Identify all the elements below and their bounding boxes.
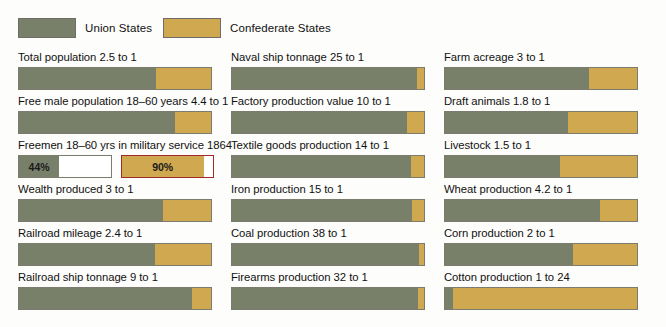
union-swatch-icon (18, 18, 76, 38)
confederate-bar-segment (573, 244, 637, 265)
legend-item-confederate: Confederate States (163, 18, 331, 38)
comparison-bar-grid: Total population 2.5 to 1Free male popul… (0, 48, 666, 327)
confederate-bar-segment (192, 288, 211, 309)
union-bar-segment (445, 112, 568, 133)
bar-item: Firearms production 32 to 1 (231, 271, 427, 310)
bar-label: Coal production 38 to 1 (231, 227, 427, 240)
bar-item: Draft animals 1.8 to 1 (444, 95, 640, 134)
bar-label: Iron production 15 to 1 (231, 183, 427, 196)
bar-item: Wealth produced 3 to 1 (18, 183, 214, 222)
confederate-bar-segment (560, 156, 637, 177)
union-bar-segment (232, 156, 411, 177)
bar-item: Livestock 1.5 to 1 (444, 139, 640, 178)
bar-label: Cotton production 1 to 24 (444, 271, 640, 284)
bar-item: Wheat production 4.2 to 1 (444, 183, 640, 222)
union-bar-segment (445, 244, 573, 265)
stacked-bar-track (444, 155, 638, 178)
bar-item: Iron production 15 to 1 (231, 183, 427, 222)
bar-item: Corn production 2 to 1 (444, 227, 640, 266)
bar-label: Farm acreage 3 to 1 (444, 51, 640, 64)
bar-label: Total population 2.5 to 1 (18, 51, 214, 64)
bar-item: Factory production value 10 to 1 (231, 95, 427, 134)
bar-label: Naval ship tonnage 25 to 1 (231, 51, 427, 64)
union-bar-segment (445, 68, 589, 89)
bar-label: Railroad ship tonnage 9 to 1 (18, 271, 214, 284)
bar-item: Railroad mileage 2.4 to 1 (18, 227, 214, 266)
bar-label: Wheat production 4.2 to 1 (444, 183, 640, 196)
legend-label-union: Union States (85, 22, 152, 34)
confederate-bar-segment (407, 112, 424, 133)
stacked-bar-track (18, 67, 212, 90)
union-bar-segment (232, 112, 407, 133)
bar-item: Textile goods production 14 to 1 (231, 139, 427, 178)
stacked-bar-track (18, 287, 212, 310)
union-bar-segment (232, 68, 417, 89)
union-bar-segment (19, 244, 155, 265)
bar-label: Free male population 18–60 years 4.4 to … (18, 95, 214, 108)
stacked-bar-track (231, 111, 425, 134)
stacked-bar-track (231, 199, 425, 222)
stacked-bar-track (231, 243, 425, 266)
confederate-swatch-icon (163, 18, 221, 38)
stacked-bar-track (444, 67, 638, 90)
confederate-bar-segment (175, 112, 211, 133)
stacked-bar-track (444, 111, 638, 134)
bar-item: Free male population 18–60 years 4.4 to … (18, 95, 214, 134)
bar-label: Firearms production 32 to 1 (231, 271, 427, 284)
union-bar-segment (232, 288, 418, 309)
bar-item: Naval ship tonnage 25 to 1 (231, 51, 427, 90)
confederate-bar-segment (589, 68, 637, 89)
bar-label: Livestock 1.5 to 1 (444, 139, 640, 152)
bar-label: Railroad mileage 2.4 to 1 (18, 227, 214, 240)
bar-label: Textile goods production 14 to 1 (231, 139, 427, 152)
legend-label-confederate: Confederate States (230, 22, 331, 34)
confederate-bar-segment (419, 244, 424, 265)
bar-item: Coal production 38 to 1 (231, 227, 427, 266)
union-percent-bar: 44% (18, 155, 112, 178)
union-bar-segment (19, 68, 156, 89)
confederate-bar-segment (156, 68, 211, 89)
stacked-bar-track (18, 243, 212, 266)
confederate-bar-segment (568, 112, 637, 133)
union-bar-segment (19, 200, 163, 221)
bar-label: Corn production 2 to 1 (444, 227, 640, 240)
percent-bar-pair: 44%90% (18, 155, 214, 178)
bar-item: Total population 2.5 to 1 (18, 51, 214, 90)
confederate-bar-segment (417, 68, 424, 89)
bar-item: Freemen 18–60 yrs in military service 18… (18, 139, 214, 178)
stacked-bar-track (444, 199, 638, 222)
union-bar-segment (445, 200, 600, 221)
stacked-bar-track (231, 287, 425, 310)
confederate-percent-bar: 90% (121, 155, 215, 178)
bar-item: Railroad ship tonnage 9 to 1 (18, 271, 214, 310)
stacked-bar-track (231, 67, 425, 90)
union-bar-segment (19, 112, 175, 133)
union-bar-segment (232, 200, 412, 221)
bar-label: Freemen 18–60 yrs in military service 18… (18, 139, 214, 152)
confederate-bar-segment (155, 244, 211, 265)
stacked-bar-track (18, 111, 212, 134)
confederate-percent-fill (122, 156, 204, 177)
union-bar-segment (232, 244, 419, 265)
union-bar-segment (445, 288, 453, 309)
bar-item: Cotton production 1 to 24 (444, 271, 640, 310)
bar-label: Factory production value 10 to 1 (231, 95, 427, 108)
confederate-bar-segment (411, 156, 424, 177)
stacked-bar-track (444, 243, 638, 266)
bar-item: Farm acreage 3 to 1 (444, 51, 640, 90)
bar-label: Wealth produced 3 to 1 (18, 183, 214, 196)
legend: Union States Confederate States (0, 0, 666, 48)
confederate-bar-segment (412, 200, 424, 221)
confederate-bar-segment (600, 200, 637, 221)
confederate-bar-segment (453, 288, 637, 309)
confederate-bar-segment (163, 200, 211, 221)
legend-item-union: Union States (18, 18, 152, 38)
stacked-bar-track (18, 199, 212, 222)
stacked-bar-track (444, 287, 638, 310)
stacked-bar-track (231, 155, 425, 178)
union-bar-segment (19, 288, 192, 309)
union-bar-segment (445, 156, 560, 177)
union-percent-fill (19, 156, 59, 177)
confederate-bar-segment (418, 288, 424, 309)
bar-label: Draft animals 1.8 to 1 (444, 95, 640, 108)
